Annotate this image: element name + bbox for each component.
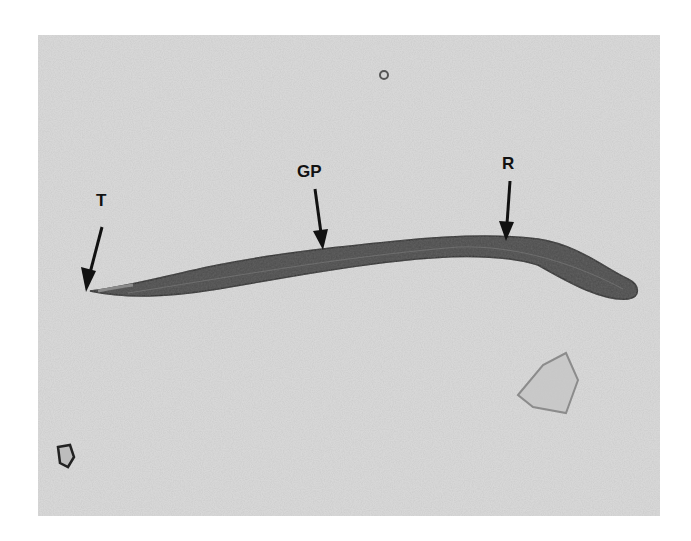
micrograph-drawing [38,35,660,516]
micrograph-image [38,35,660,516]
label-R: R [502,155,514,172]
label-GP: GP [297,163,322,180]
label-T: T [96,192,106,209]
